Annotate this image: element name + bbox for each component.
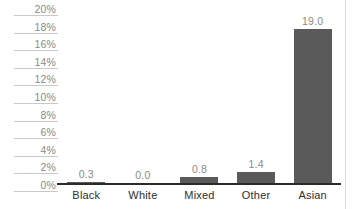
y-axis-tick-rule xyxy=(14,103,58,104)
y-axis-tick-label: 10% xyxy=(34,91,56,103)
y-axis-tick-label: 6% xyxy=(40,126,56,138)
x-axis-line xyxy=(57,183,341,185)
y-axis-tick: 10% xyxy=(0,90,58,104)
bar-value-label: 1.4 xyxy=(228,158,285,170)
bar-group-asian: 19.0 xyxy=(284,8,341,184)
bar-group-other: 1.4 xyxy=(228,8,285,184)
y-axis-tick-rule xyxy=(14,138,58,139)
y-axis-tick-rule xyxy=(14,15,58,16)
y-axis-tick: 14% xyxy=(0,55,58,69)
y-axis-tick-label: 4% xyxy=(40,144,56,156)
y-axis-tick: 12% xyxy=(0,72,58,86)
y-axis-tick-label: 18% xyxy=(34,21,56,33)
y-axis-tick-rule xyxy=(14,173,58,174)
y-axis-tick-rule xyxy=(14,68,58,69)
page-border xyxy=(345,0,346,209)
y-axis-tick-label: 12% xyxy=(34,73,56,85)
y-axis-tick-label: 20% xyxy=(34,3,56,15)
bar-value-label: 19.0 xyxy=(284,15,341,27)
y-axis-tick: 16% xyxy=(0,37,58,51)
bar-chart: 20% 18% 16% 14% 12% 10% 8% 6% xyxy=(0,0,352,209)
y-axis-tick: 4% xyxy=(0,143,58,157)
bar-group-mixed: 0.8 xyxy=(171,8,228,184)
bar-series: 0.3 0.0 0.8 1.4 19.0 xyxy=(58,8,341,184)
bar-asian[interactable] xyxy=(294,29,332,184)
y-axis-tick: 0% xyxy=(0,178,58,192)
y-axis-tick-rule xyxy=(14,50,58,51)
bar-group-white: 0.0 xyxy=(115,8,172,184)
x-axis-label-asian: Asian xyxy=(284,188,341,206)
y-axis-tick-label: 16% xyxy=(34,38,56,50)
bar-value-label: 0.3 xyxy=(58,168,115,180)
bar-group-black: 0.3 xyxy=(58,8,115,184)
y-axis-tick-label: 14% xyxy=(34,56,56,68)
bar-value-label: 0.8 xyxy=(171,163,228,175)
y-axis-tick-rule xyxy=(14,33,58,34)
x-axis: Black White Mixed Other Asian xyxy=(58,188,341,206)
y-axis-tick-rule xyxy=(14,85,58,86)
y-axis-tick-label: 0% xyxy=(40,179,56,191)
y-axis-tick: 6% xyxy=(0,125,58,139)
y-axis-tick: 2% xyxy=(0,160,58,174)
y-axis-tick-label: 2% xyxy=(40,161,56,173)
y-axis-tick-rule xyxy=(14,156,58,157)
y-axis: 20% 18% 16% 14% 12% 10% 8% 6% xyxy=(0,0,58,209)
y-axis-tick: 18% xyxy=(0,20,58,34)
y-axis-tick-rule xyxy=(14,191,58,192)
y-axis-tick: 8% xyxy=(0,108,58,122)
y-axis-tick-label: 8% xyxy=(40,109,56,121)
y-axis-tick: 20% xyxy=(0,2,58,16)
x-axis-label-black: Black xyxy=(58,188,115,206)
y-axis-tick-rule xyxy=(14,121,58,122)
bar-value-label: 0.0 xyxy=(115,169,172,181)
x-axis-label-other: Other xyxy=(228,188,285,206)
x-axis-label-white: White xyxy=(115,188,172,206)
x-axis-label-mixed: Mixed xyxy=(171,188,228,206)
